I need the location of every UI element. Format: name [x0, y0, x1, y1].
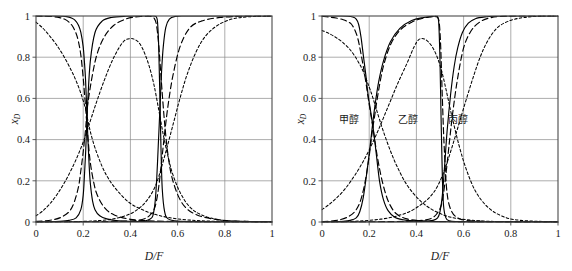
- curve-ethanol-dotted: [322, 38, 558, 221]
- panel-right-svg: 00.20.40.60.8100.20.40.60.81D/FxD甲醇乙醇丙醇: [286, 0, 572, 271]
- x-tick-label: 0.2: [77, 228, 90, 239]
- y-axis-title: xD: [294, 113, 308, 125]
- x-tick-label: 0.6: [457, 228, 470, 239]
- svg-text:xD: xD: [8, 113, 22, 125]
- plot-left: 00.20.40.60.8100.20.40.60.81D/FxD: [8, 11, 275, 262]
- y-tick-label: 1: [311, 11, 316, 22]
- y-tick-label: 0.4: [303, 134, 317, 145]
- curve-methanol-solid: [36, 16, 272, 222]
- x-axis-title: D/F: [144, 250, 165, 262]
- y-tick-label: 0.8: [17, 52, 30, 63]
- panel-left: 00.20.40.60.8100.20.40.60.81D/FxD: [0, 0, 286, 271]
- x-tick-label: 0.8: [218, 228, 231, 239]
- curve-methanol-dotted: [36, 22, 272, 222]
- series-label-乙醇: 乙醇: [398, 113, 418, 125]
- x-tick-label: 1: [555, 228, 560, 239]
- curve-propanol-dotted: [36, 16, 272, 222]
- y-tick-label: 0: [311, 217, 316, 228]
- y-tick-label: 0.6: [17, 93, 30, 104]
- series-label-丙醇: 丙醇: [448, 113, 468, 125]
- curve-propanol-solid: [36, 16, 272, 222]
- curve-ethanol-dotted: [36, 39, 272, 222]
- panel-right: 00.20.40.60.8100.20.40.60.81D/FxD甲醇乙醇丙醇: [286, 0, 572, 271]
- plot-frame: [36, 16, 272, 222]
- x-axis-title: D/F: [430, 250, 451, 262]
- panel-left-svg: 00.20.40.60.8100.20.40.60.81D/FxD: [0, 0, 286, 271]
- curve-propanol-dashed: [36, 16, 272, 222]
- y-axis-title: xD: [8, 113, 22, 125]
- y-tick-label: 0.2: [17, 176, 30, 187]
- y-tick-label: 0.6: [303, 93, 316, 104]
- y-tick-label: 0.8: [303, 52, 316, 63]
- series-label-甲醇: 甲醇: [339, 113, 359, 125]
- curve-ethanol-dashed: [36, 16, 272, 222]
- x-tick-label: 0.4: [124, 228, 138, 239]
- figure-container: 00.20.40.60.8100.20.40.60.81D/FxD 00.20.…: [0, 0, 572, 271]
- y-tick-label: 0.2: [303, 176, 316, 187]
- x-tick-label: 0.2: [363, 228, 376, 239]
- x-tick-label: 0.8: [504, 228, 517, 239]
- x-tick-label: 0.6: [171, 228, 184, 239]
- y-tick-label: 1: [25, 11, 30, 22]
- curve-group: [36, 16, 272, 222]
- x-tick-label: 0.4: [410, 228, 424, 239]
- curve-methanol-dashed: [36, 16, 272, 222]
- svg-text:xD: xD: [294, 113, 308, 125]
- x-tick-label: 0: [319, 228, 324, 239]
- curve-ethanol-solid: [36, 16, 272, 222]
- y-tick-label: 0.4: [17, 134, 31, 145]
- x-tick-label: 1: [269, 228, 274, 239]
- y-tick-label: 0: [25, 217, 30, 228]
- x-tick-label: 0: [33, 228, 38, 239]
- plot-right: 00.20.40.60.8100.20.40.60.81D/FxD甲醇乙醇丙醇: [294, 11, 561, 262]
